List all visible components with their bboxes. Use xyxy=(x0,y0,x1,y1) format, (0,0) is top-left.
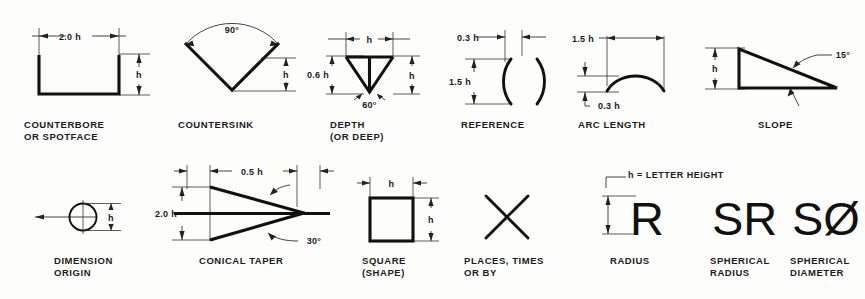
spherical-radius-glyph: SR xyxy=(712,192,777,245)
symbol-depth: h h 0.6 h 60° xyxy=(302,14,442,119)
symbol-slope: h 15° xyxy=(695,24,860,116)
caption-radius: RADIUS xyxy=(610,255,720,267)
square-height-dim: h xyxy=(428,215,434,225)
symbol-conical-taper: 0.5 h 2.0 h 30° xyxy=(152,155,342,253)
counterbore-width-dim: 2.0 h xyxy=(59,32,81,42)
spherical-diameter-glyph: SØ xyxy=(792,192,860,245)
caption-counterbore: COUNTERBORE OR SPOTFACE xyxy=(24,119,154,142)
counterbore-drawing: 2.0 h h xyxy=(20,14,170,114)
caption-arc-length: ARC LENGTH xyxy=(578,119,698,131)
arc-length-width-dim: 1.5 h xyxy=(572,34,594,44)
caption-places-times: PLACES, TIMES OR BY xyxy=(464,255,584,278)
slope-drawing: h 15° xyxy=(695,24,860,116)
symbol-counterbore: 2.0 h h xyxy=(20,14,170,114)
conical-taper-height-dim: 2.0 h xyxy=(155,209,177,219)
slope-height-dim: h xyxy=(712,64,718,74)
caption-depth: DEPTH (OR DEEP) xyxy=(330,119,450,142)
radius-drawing: R xyxy=(596,186,706,248)
reference-height-dim: 1.5 h xyxy=(449,77,471,87)
caption-spherical-diameter: SPHERICAL DIAMETER xyxy=(790,255,865,278)
radius-glyph: R xyxy=(630,192,664,245)
depth-angle-dim: 60° xyxy=(362,100,377,110)
symbol-countersink: 90° h xyxy=(165,10,315,115)
symbol-places-times xyxy=(470,186,550,248)
depth-height-dim: h xyxy=(409,71,415,81)
conical-taper-angle-dim: 30° xyxy=(307,236,322,246)
caption-countersink: COUNTERSINK xyxy=(178,119,308,131)
countersink-angle-dim: 90° xyxy=(225,25,240,35)
counterbore-height-dim: h xyxy=(136,70,142,80)
symbol-spherical-diameter: SØ xyxy=(790,186,865,248)
countersink-drawing: 90° h xyxy=(165,10,315,115)
letter-height-note: h = LETTER HEIGHT xyxy=(628,170,724,180)
symbol-arc-length: 1.5 h 0.3 h xyxy=(563,14,698,114)
caption-conical-taper: CONICAL TAPER xyxy=(199,255,339,267)
dimension-origin-diameter-dim: h xyxy=(108,213,114,223)
symbol-spherical-radius: SR xyxy=(710,186,800,248)
symbol-radius: R xyxy=(596,186,706,248)
symbol-reference: 0.3 h 1.5 h xyxy=(443,14,573,114)
spherical-radius-drawing: SR xyxy=(710,186,800,248)
places-times-drawing xyxy=(470,186,550,248)
caption-slope: SLOPE xyxy=(758,119,865,131)
symbol-dimension-origin: h xyxy=(25,185,150,255)
caption-reference: REFERENCE xyxy=(461,119,581,131)
symbol-square-shape: h h xyxy=(343,168,463,254)
countersink-height-dim: h xyxy=(283,70,289,80)
square-shape-drawing: h h xyxy=(343,168,463,254)
slope-angle-dim: 15° xyxy=(836,50,851,60)
arc-length-drawing: 1.5 h 0.3 h xyxy=(563,14,698,114)
depth-width-dim: h xyxy=(367,35,373,45)
reference-gap-dim: 0.3 h xyxy=(457,33,479,43)
conical-taper-drawing: 0.5 h 2.0 h 30° xyxy=(152,155,342,253)
conical-taper-left-dim: 0.5 h xyxy=(241,167,263,177)
symbol-chart-sheet: 2.0 h h COUNTERBORE OR SPOTFACE 90° h CO… xyxy=(0,0,865,299)
depth-arrow-dim: 0.6 h xyxy=(307,70,329,80)
depth-drawing: h h 0.6 h 60° xyxy=(302,14,442,119)
square-width-dim: h xyxy=(389,179,395,189)
reference-drawing: 0.3 h 1.5 h xyxy=(443,14,573,114)
caption-square-shape: SQUARE (SHAPE) xyxy=(362,255,472,278)
arc-length-rise-dim: 0.3 h xyxy=(598,101,620,111)
dimension-origin-drawing: h xyxy=(25,185,150,255)
caption-dimension-origin: DIMENSION ORIGIN xyxy=(54,255,174,278)
spherical-diameter-drawing: SØ xyxy=(790,186,865,248)
